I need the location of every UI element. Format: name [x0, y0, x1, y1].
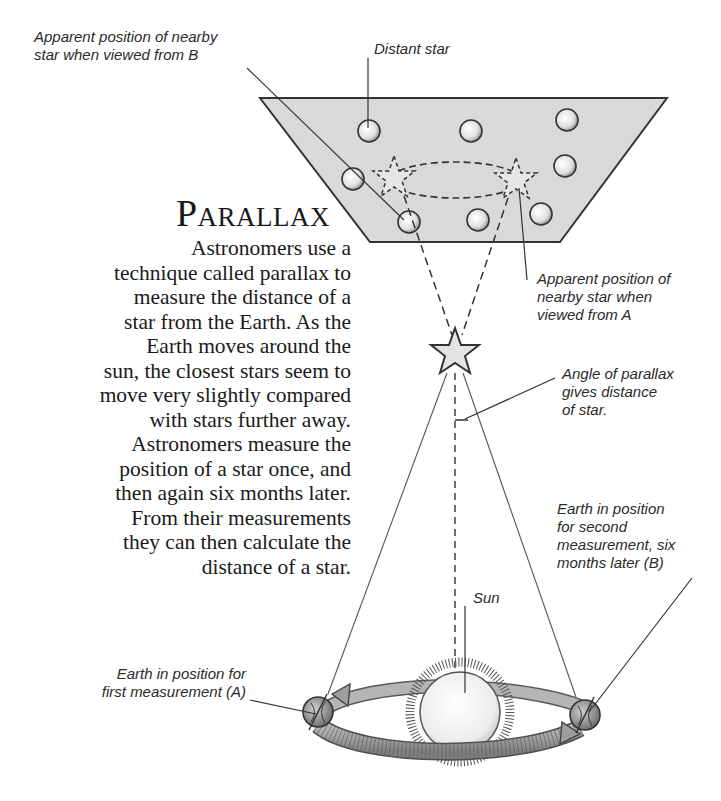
leader-earth-b: [589, 578, 692, 712]
distant-star-icon: [554, 155, 576, 177]
body-line: From their measurements: [20, 506, 351, 531]
body-line: measure the distance of a: [20, 285, 351, 310]
body-line: then again six months later.: [20, 481, 351, 506]
label-earth-a: Earth in position for first measurement …: [66, 665, 246, 701]
body-line: Astronomers measure the: [20, 432, 351, 457]
body-line: position of a star once, and: [20, 457, 351, 482]
label-apparent-position-a: Apparent position of nearby star when vi…: [537, 270, 670, 324]
leader-angle: [465, 378, 555, 419]
label-distant-star: Distant star: [374, 40, 450, 58]
body-line: technique called parallax to: [20, 261, 351, 286]
label-sun: Sun: [473, 589, 500, 607]
distant-star-icon: [460, 120, 482, 142]
body-line: star from the Earth. As the: [20, 310, 351, 335]
nearby-star-icon: [431, 328, 479, 373]
body-line: they can then calculate the: [20, 530, 351, 555]
body-line: sun, the closest stars seem to: [20, 359, 351, 384]
body-line: Earth moves around the: [20, 334, 351, 359]
label-angle-of-parallax: Angle of parallax gives distance of star…: [562, 365, 674, 419]
body-line: with stars further away.: [20, 408, 351, 433]
page-title: Parallax: [140, 193, 366, 233]
label-apparent-position-b: Apparent position of nearby star when vi…: [34, 28, 217, 64]
distant-star-icon: [556, 109, 578, 131]
label-earth-b: Earth in position for second measurement…: [557, 500, 675, 572]
distant-star-icon: [358, 120, 380, 142]
body-line: Astronomers use a: [20, 236, 351, 261]
body-line: distance of a star.: [20, 555, 351, 580]
distant-star-icon: [530, 203, 552, 225]
body-line: move very slightly compared: [20, 383, 351, 408]
body-paragraph: Astronomers use a technique called paral…: [20, 236, 351, 579]
distant-star-icon: [398, 211, 420, 233]
distant-star-icon: [467, 209, 489, 231]
